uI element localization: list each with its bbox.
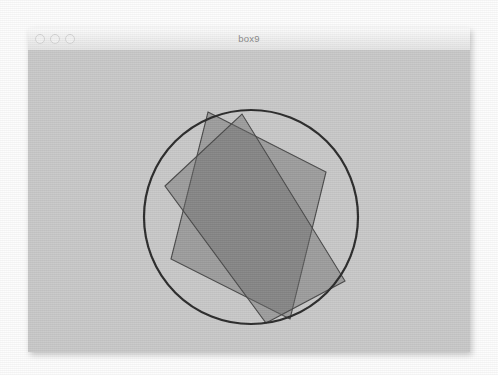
app-window: box9	[28, 28, 470, 352]
screen-background: box9	[0, 0, 498, 375]
window-title: box9	[28, 28, 470, 50]
rectangle-b-shape	[165, 114, 345, 323]
drawing-canvas[interactable]	[28, 50, 470, 352]
window-titlebar[interactable]: box9	[28, 28, 470, 51]
geometry-figure	[28, 50, 470, 352]
